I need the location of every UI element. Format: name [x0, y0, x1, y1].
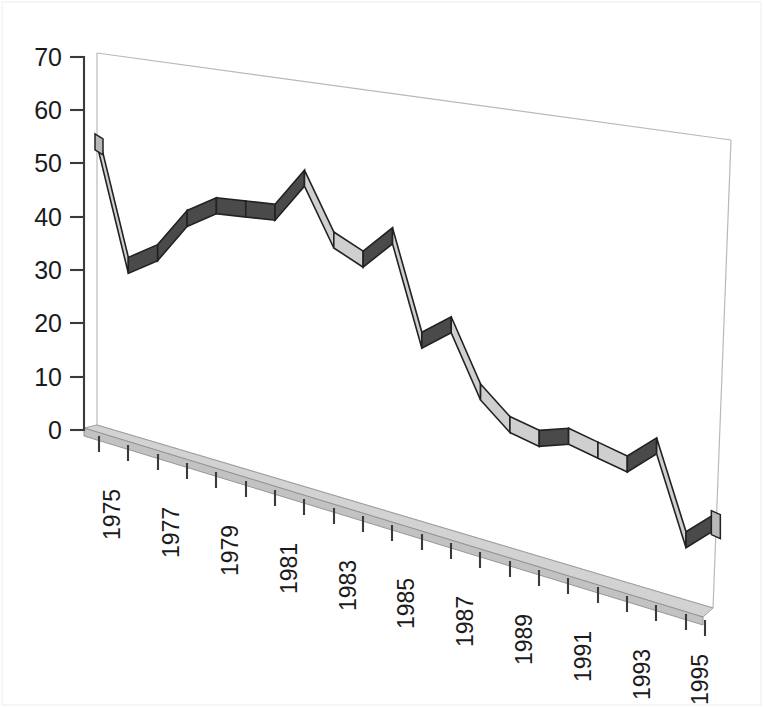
y-tick-label-30: 30	[34, 256, 62, 284]
ribbon-segment	[304, 170, 333, 248]
ribbon-segment	[393, 228, 422, 348]
ribbon-segment	[451, 317, 480, 400]
year-value-axis-group: 70 60 50 40 30 20 10 0	[34, 43, 84, 444]
x-tick-label-1993: 1993	[629, 649, 655, 700]
ribbon-segment	[539, 428, 568, 446]
ribbon-segment	[216, 198, 245, 217]
line-chart-3d: 70 60 50 40 30 20 10 0	[0, 0, 763, 707]
ribbon-end-cap	[711, 511, 720, 539]
x-tick-label-1991: 1991	[570, 631, 596, 682]
ribbon-segment	[128, 245, 157, 274]
x-tick-label-1977: 1977	[158, 507, 184, 558]
ribbon-segment	[510, 416, 539, 446]
data-series-ribbon	[95, 134, 720, 548]
y-tick-label-50: 50	[34, 149, 62, 177]
x-tick-label-1983: 1983	[335, 560, 361, 611]
x-tick-label-1989: 1989	[511, 614, 537, 665]
x-tick-label-1981: 1981	[276, 543, 302, 594]
x-tick-label-1995: 1995	[687, 654, 713, 705]
ribbon-segment	[275, 170, 304, 220]
x-tick-label-1985: 1985	[393, 578, 419, 629]
x-tick-label-1975: 1975	[99, 489, 125, 540]
ribbon-segment	[422, 317, 451, 348]
ribbon-segment	[99, 137, 128, 273]
ribbon-segment	[246, 201, 275, 220]
ribbon-segment	[363, 228, 392, 267]
y-tick-label-40: 40	[34, 203, 62, 231]
ribbon-segment	[569, 428, 598, 458]
ribbon-segment	[598, 442, 627, 472]
chart-container: 70 60 50 40 30 20 10 0	[0, 0, 763, 707]
ribbon-segment	[334, 232, 363, 267]
y-tick-label-0: 0	[48, 416, 62, 444]
y-tick-label-60: 60	[34, 96, 62, 124]
x-tick-label-1987: 1987	[452, 596, 478, 647]
ribbon-start-cap	[95, 134, 103, 155]
ribbon-segment	[187, 198, 216, 227]
ribbon-segment	[627, 438, 656, 472]
ribbon-segment	[657, 438, 686, 548]
y-tick-label-20: 20	[34, 309, 62, 337]
wall-right-edge	[713, 140, 731, 608]
ribbon-segment	[481, 384, 510, 433]
y-tick-label-10: 10	[34, 363, 62, 391]
x-tick-label-1979: 1979	[217, 525, 243, 576]
y-tick-label-70: 70	[34, 43, 62, 71]
ribbon-segment	[158, 211, 187, 261]
wall-top-edge	[97, 53, 731, 140]
